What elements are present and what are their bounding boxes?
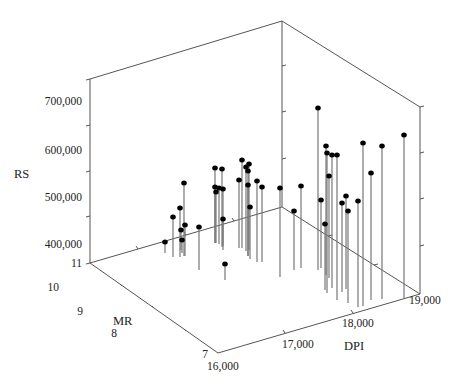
data-point: [247, 205, 253, 210]
data-point: [196, 225, 202, 230]
data-point: [343, 194, 349, 199]
data-point: [219, 167, 225, 172]
mr-tick-label: 9: [77, 305, 83, 317]
data-point: [326, 174, 332, 179]
data-point: [329, 153, 335, 158]
data-point: [318, 198, 324, 203]
data-point: [246, 162, 252, 167]
dpi-tick-label: 16,000: [207, 360, 239, 373]
data-point: [181, 181, 187, 186]
data-point: [291, 209, 297, 214]
data-point: [162, 240, 168, 245]
data-point: [239, 158, 245, 163]
dpi-tick-label: 18,000: [342, 317, 374, 330]
data-point: [368, 171, 374, 176]
dpi-axis-title: DPI: [344, 339, 364, 353]
data-point: [177, 206, 183, 211]
data-point: [170, 215, 176, 220]
mr-axis-title: MR: [113, 314, 133, 328]
data-point: [334, 153, 340, 158]
data-point: [222, 262, 228, 267]
data-points: [162, 106, 407, 308]
rs-tick-label: 400,000: [45, 238, 83, 251]
rs-axis-title: RS: [14, 167, 29, 181]
dpi-tick-label: 17,000: [282, 338, 314, 351]
rs-tick-label: 500,000: [45, 191, 83, 204]
data-point: [339, 201, 345, 206]
data-point: [245, 169, 251, 174]
axis-ticks: [86, 65, 424, 333]
data-point: [178, 228, 184, 233]
data-point: [345, 209, 351, 214]
data-point: [179, 238, 185, 243]
data-point: [277, 186, 283, 191]
data-point: [360, 141, 366, 146]
data-point: [322, 222, 328, 227]
dpi-tick-label: 19,000: [409, 294, 441, 307]
data-point: [182, 223, 188, 228]
data-point: [212, 166, 218, 171]
data-point: [323, 144, 329, 149]
data-point: [401, 133, 407, 138]
mr-tick-label: 7: [202, 348, 208, 360]
3d-scatter-chart: 700,000600,000500,000400,000111098716,00…: [0, 0, 455, 384]
rs-tick-label: 600,000: [45, 144, 83, 157]
data-point: [220, 217, 226, 222]
data-point: [236, 178, 242, 183]
data-point: [379, 144, 385, 149]
data-point: [220, 187, 226, 192]
data-point: [315, 106, 321, 111]
data-point: [324, 151, 330, 156]
data-point: [355, 199, 361, 204]
data-point: [259, 185, 265, 190]
mr-tick-label: 10: [48, 281, 60, 293]
data-point: [245, 183, 251, 188]
rs-tick-label: 700,000: [45, 95, 83, 108]
mr-tick-label: 11: [71, 257, 82, 269]
mr-tick-label: 8: [111, 327, 117, 339]
data-point: [254, 179, 260, 184]
data-point: [298, 184, 304, 189]
